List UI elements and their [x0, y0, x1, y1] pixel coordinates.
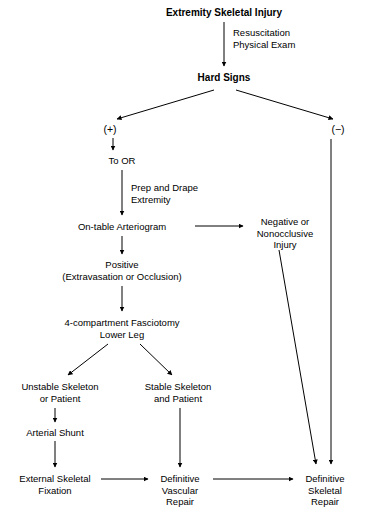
node-definitive-vascular-repair: DefinitiveVascularRepair — [160, 473, 199, 508]
node-positive-extravasation-or-occlusion: Positive(Extravasation or Occlusion) — [62, 259, 181, 282]
node-on-table-arteriogram: On-table Arteriogram — [78, 221, 166, 233]
flowchart-diagram: Extremity Skeletal Injury Hard Signs (+)… — [0, 0, 365, 519]
node-hard-signs: Hard Signs — [198, 72, 251, 84]
node-stable-skeleton-and-patient: Stable Skeletonand Patient — [145, 381, 212, 404]
node-definitive-skeletal-repair: DefinitiveSkeletalRepair — [305, 473, 344, 508]
node-positive-sign: (+) — [103, 124, 116, 136]
edge-label-resuscitation-physical-exam: ResuscitationPhysical Exam — [233, 27, 295, 50]
edge-hard-signs-to-minus — [236, 90, 333, 119]
edge-negative-to-skeletal — [279, 250, 316, 464]
node-four-compartment-fasciotomy: 4-compartment FasciotomyLower Leg — [64, 317, 179, 340]
node-negative-or-nonocclusive-injury: Negative orNonocclusiveInjury — [257, 216, 314, 251]
node-external-skeletal-fixation: External SkeletalFixation — [19, 473, 90, 496]
flowchart-edges — [0, 0, 365, 519]
node-arterial-shunt: Arterial Shunt — [26, 427, 84, 439]
node-to-or: To OR — [109, 155, 136, 167]
node-negative-sign: (−) — [331, 124, 344, 136]
edge-fasciotomy-to-unstable — [68, 344, 108, 375]
node-extremity-skeletal-injury: Extremity Skeletal Injury — [166, 7, 282, 19]
edge-hard-signs-to-plus — [117, 90, 214, 119]
figure-caption-clipped — [6, 510, 361, 518]
edge-fasciotomy-to-stable — [140, 344, 172, 375]
edge-label-prep-and-drape-extremity: Prep and DrapeExtremity — [131, 182, 198, 205]
node-unstable-skeleton-or-patient: Unstable Skeletonor Patient — [21, 381, 98, 404]
